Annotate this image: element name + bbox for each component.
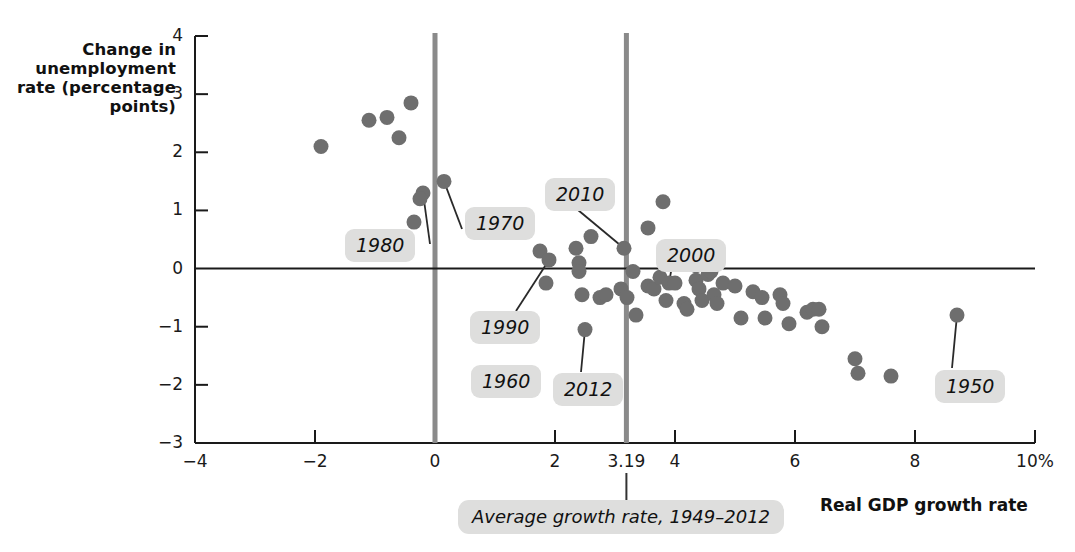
leader-line-1970: [444, 181, 462, 229]
data-point: [629, 308, 644, 323]
leader-line-1950: [952, 315, 957, 368]
data-point: [656, 194, 671, 209]
x-tick-label: 0: [395, 451, 475, 471]
data-point: [407, 215, 422, 230]
x-tick-label: 6: [755, 451, 835, 471]
y-tick-label: −3: [137, 432, 183, 452]
y-tick-label: 1: [137, 199, 183, 219]
x-tick-label: 10%: [995, 451, 1075, 471]
data-point-1990: [542, 252, 557, 267]
reference-line-layer: [195, 33, 1035, 500]
callout-1980: 1980: [345, 229, 415, 262]
data-point: [659, 293, 674, 308]
y-tick-label: 3: [137, 83, 183, 103]
y-tick-label: −2: [137, 374, 183, 394]
data-point: [314, 139, 329, 154]
callout-1960: 1960: [471, 365, 541, 398]
x-tick-label: −2: [275, 451, 355, 471]
y-tick-label: 0: [137, 258, 183, 278]
data-point: [812, 302, 827, 317]
data-point: [728, 279, 743, 294]
data-point: [680, 302, 695, 317]
data-point-2012: [578, 322, 593, 337]
y-tick-label: 2: [137, 141, 183, 161]
data-point: [599, 287, 614, 302]
data-point: [734, 311, 749, 326]
data-point: [758, 311, 773, 326]
data-point: [851, 366, 866, 381]
data-point: [782, 316, 797, 331]
average-growth-note: Average growth rate, 1949–2012: [458, 500, 784, 534]
x-tick-label: 8: [875, 451, 955, 471]
data-point: [884, 369, 899, 384]
data-point-1950: [950, 308, 965, 323]
data-point: [620, 290, 635, 305]
leader-line-2010: [572, 205, 624, 248]
data-point: [641, 220, 656, 235]
data-point: [668, 276, 683, 291]
y-tick-label: 4: [137, 25, 183, 45]
data-point: [572, 264, 587, 279]
data-point: [584, 229, 599, 244]
callout-2010: 2010: [545, 178, 615, 211]
data-point: [575, 287, 590, 302]
data-point: [848, 351, 863, 366]
data-point: [380, 110, 395, 125]
data-point: [710, 296, 725, 311]
data-point: [539, 276, 554, 291]
x-tick-label: 2: [515, 451, 595, 471]
data-point: [569, 241, 584, 256]
callout-1970: 1970: [465, 207, 535, 240]
callout-2000: 2000: [656, 239, 726, 272]
callout-1990: 1990: [470, 311, 540, 344]
data-point: [626, 264, 641, 279]
data-point: [776, 296, 791, 311]
chart-figure: Change in unemployment rate (percentage …: [0, 0, 1075, 552]
data-point-2010: [617, 241, 632, 256]
data-point: [404, 95, 419, 110]
data-point: [362, 113, 377, 128]
y-tick-label: −1: [137, 316, 183, 336]
data-point: [413, 191, 428, 206]
x-tick-label: 4: [635, 451, 715, 471]
data-point: [755, 290, 770, 305]
callout-2012: 2012: [553, 373, 623, 406]
data-point-1970: [437, 174, 452, 189]
callout-1950: 1950: [935, 370, 1005, 403]
data-point: [815, 319, 830, 334]
x-tick-label: −4: [155, 451, 235, 471]
data-point: [392, 130, 407, 145]
